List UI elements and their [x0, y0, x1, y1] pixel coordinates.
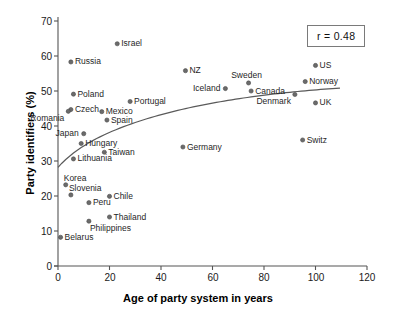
data-point-lithuania — [71, 157, 75, 161]
point-label-uk: UK — [320, 98, 332, 107]
point-label-canada: Canada — [255, 87, 285, 96]
point-label-portugal: Portugal — [134, 97, 166, 106]
point-label-japan: Japan — [56, 129, 79, 138]
point-label-denmark: Denmark — [256, 97, 290, 106]
data-point-thailand — [107, 215, 111, 219]
x-tick-80: 80 — [249, 272, 279, 283]
data-point-germany — [181, 145, 185, 149]
x-tick-100: 100 — [301, 272, 331, 283]
point-label-russia: Russia — [75, 57, 101, 66]
data-point-peru — [87, 201, 91, 205]
data-point-nz — [183, 69, 187, 73]
data-point-slovenia — [69, 193, 73, 197]
x-tick-0: 0 — [43, 272, 73, 283]
data-point-mexico — [100, 110, 104, 114]
data-point-spain — [105, 118, 109, 122]
point-label-korea: Korea — [64, 174, 87, 183]
data-point-israel — [115, 42, 119, 46]
point-label-germany: Germany — [187, 143, 222, 152]
data-point-portugal — [128, 99, 132, 103]
data-point-belarus — [58, 235, 62, 239]
data-point-norway — [303, 79, 307, 83]
data-point-japan — [82, 132, 86, 136]
x-tick-20: 20 — [95, 272, 125, 283]
data-point-switz — [301, 138, 305, 142]
point-label-belarus: Belarus — [65, 233, 94, 242]
point-label-spain: Spain — [111, 116, 133, 125]
point-label-slovenia: Slovenia — [69, 184, 102, 193]
scatter-chart: 70 60 50 40 30 20 10 0 0 20 40 60 80 100… — [0, 0, 396, 320]
y-axis-title: Party identifiers (%) — [24, 53, 36, 233]
point-label-czech: Czech — [75, 105, 99, 114]
point-label-nz: NZ — [189, 66, 200, 75]
data-point-sweden — [246, 81, 250, 85]
point-label-taiwan: Taiwan — [108, 148, 134, 157]
point-label-switz: Switz — [307, 136, 327, 145]
x-tick-40: 40 — [146, 272, 176, 283]
point-label-peru: Peru — [93, 198, 111, 207]
correlation-annotation: r = 0.48 — [307, 25, 365, 47]
y-tick-70: 70 — [26, 16, 52, 27]
data-point-romania — [66, 109, 70, 113]
x-tick-120: 120 — [352, 272, 382, 283]
point-label-norway: Norway — [309, 77, 338, 86]
data-point-us — [313, 63, 317, 67]
point-label-philippines: Philippines — [90, 224, 131, 233]
point-label-lithuania: Lithuania — [77, 154, 112, 163]
data-point-canada — [249, 89, 253, 93]
data-point-hungary — [79, 141, 83, 145]
data-point-russia — [69, 60, 73, 64]
x-axis-title: Age of party system in years — [0, 292, 396, 304]
data-point-denmark — [293, 92, 297, 96]
data-point-iceland — [223, 86, 227, 90]
data-point-poland — [71, 92, 75, 96]
point-label-israel: Israel — [121, 39, 142, 48]
y-tick-0: 0 — [26, 261, 52, 272]
point-label-romania: Romania — [30, 114, 64, 123]
point-label-chile: Chile — [114, 192, 133, 201]
point-label-sweden: Sweden — [231, 71, 262, 80]
point-label-us: US — [320, 61, 332, 70]
point-label-iceland: Iceland — [193, 84, 220, 93]
data-point-korea — [64, 183, 68, 187]
point-label-poland: Poland — [77, 90, 103, 99]
x-tick-60: 60 — [198, 272, 228, 283]
point-label-thailand: Thailand — [114, 213, 147, 222]
data-point-uk — [313, 101, 317, 105]
